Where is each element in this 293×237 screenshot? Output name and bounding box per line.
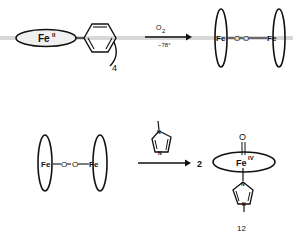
stoichiometric-coefficient: 2 [197, 159, 202, 169]
imidazole-reagent-icon: N N [152, 121, 171, 156]
svg-text:Fe: Fe [236, 158, 247, 168]
svg-text:−78°: −78° [158, 42, 171, 48]
svg-text:IV: IV [248, 155, 254, 161]
axial-imidazole-icon: N N [233, 181, 253, 212]
svg-text:Fe: Fe [267, 34, 277, 43]
svg-text:Fe: Fe [216, 34, 226, 43]
svg-text:N: N [158, 150, 162, 156]
reaction-1: Fe II 4 O 2 −78° Fe O O [16, 9, 285, 73]
svg-text:II: II [52, 32, 56, 38]
svg-text:N: N [241, 181, 245, 187]
svg-text:N: N [242, 201, 246, 207]
ferryl-porphyrin: O Fe IV [213, 132, 275, 181]
svg-text:O: O [234, 34, 240, 43]
svg-text:Fe: Fe [38, 33, 50, 44]
reaction-scheme: Fe II 4 O 2 −78° Fe O O [0, 0, 293, 237]
fe-ii-porphyrin: Fe II [16, 30, 84, 47]
compound-number: 12 [237, 224, 246, 233]
mu-peroxo-dimer-2: Fe O O Fe [38, 135, 107, 191]
phenyl-ring-icon: 4 [84, 24, 117, 73]
svg-text:2: 2 [162, 28, 166, 34]
reaction-2: Fe O O Fe N N 2 O Fe [38, 121, 275, 233]
svg-text:4: 4 [112, 63, 117, 73]
svg-text:O: O [72, 160, 78, 169]
svg-text:Fe: Fe [89, 160, 99, 169]
svg-text:N: N [157, 129, 161, 135]
svg-text:O: O [239, 132, 246, 142]
svg-text:Fe: Fe [41, 160, 51, 169]
svg-text:O: O [243, 34, 249, 43]
reaction-arrow-2 [138, 160, 191, 167]
svg-text:O: O [61, 160, 67, 169]
